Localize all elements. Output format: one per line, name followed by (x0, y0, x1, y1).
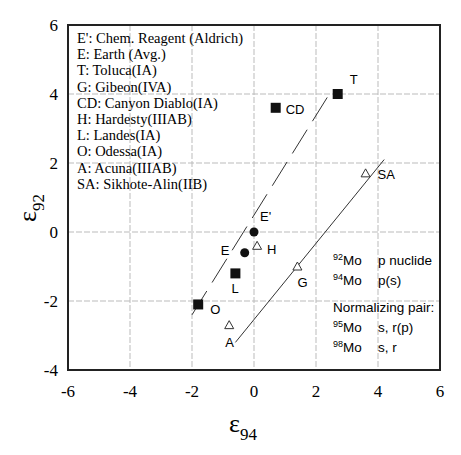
nuclide-row: 95Mo (333, 319, 362, 335)
legend-entry: T: Toluca(IA) (77, 62, 157, 79)
legend-entry: E': Chem. Reagent (Aldrich) (77, 30, 243, 47)
normalizing-title: Normalizing pair: (333, 300, 434, 315)
square-marker (333, 89, 343, 99)
x-tick-label: -2 (185, 382, 199, 401)
legend-entry: CD: Canyon Diablo(IA) (77, 95, 218, 112)
point-label: O (210, 302, 220, 317)
square-marker (230, 268, 240, 278)
x-tick-label: 6 (436, 382, 445, 401)
nuclide-desc: s, r(p) (378, 320, 413, 335)
scatter-chart: E'ETCDLOHGASA -6-4-20246 -4-20246 E': Ch… (0, 0, 461, 455)
x-tick-label: -4 (123, 382, 138, 401)
point-label: L (231, 281, 238, 296)
y-tick-label: 2 (50, 154, 59, 173)
x-tick-label: -6 (61, 382, 75, 401)
y-tick-label: -2 (44, 292, 58, 311)
point-label: SA (378, 167, 396, 182)
y-tick-label: 0 (50, 223, 59, 242)
nuclide-desc: s, r (378, 340, 397, 355)
y-tick-label: 6 (50, 16, 59, 35)
nuclide-annotation: 92Mop nuclide94Mop(s)Normalizing pair:95… (333, 252, 434, 355)
x-tick-label: 4 (374, 382, 383, 401)
y-tick-label: -4 (44, 361, 59, 380)
triangle-marker (361, 169, 370, 177)
nuclide-row: 98Mo (333, 339, 362, 355)
x-axis-label: ε94 (229, 409, 257, 444)
y-tick-label: 4 (50, 85, 59, 104)
legend-entry: O: Odessa(IA) (77, 143, 162, 160)
triangle-marker (225, 321, 234, 329)
x-tick-label: 2 (312, 382, 321, 401)
point-label: H (267, 242, 276, 257)
point-label: G (297, 275, 307, 290)
nuclide-row: 94Mo (333, 272, 362, 288)
nuclide-desc: p nuclide (378, 253, 432, 268)
square-marker (271, 103, 281, 113)
point-label: E' (260, 209, 271, 224)
point-label: CD (286, 102, 305, 117)
legend-entry: L: Landes(IA) (77, 127, 161, 144)
legend: E': Chem. Reagent (Aldrich)E: Earth (Avg… (77, 30, 243, 193)
legend-entry: SA: Sikhote-Alin(IIB) (77, 176, 207, 193)
square-marker (193, 299, 203, 309)
triangle-marker (293, 262, 302, 270)
x-tick-labels: -6-4-20246 (61, 382, 444, 401)
point-label: T (350, 72, 358, 87)
legend-entry: E: Earth (Avg.) (77, 46, 166, 63)
circle-marker (240, 248, 249, 257)
trend-line (192, 91, 332, 315)
point-label: A (225, 335, 234, 350)
legend-entry: A: Acuna(IIIAB) (77, 160, 177, 177)
legend-entry: H: Hardesty(IIIAB) (77, 111, 192, 128)
y-axis-label: ε92 (13, 194, 48, 222)
point-label: E (221, 243, 230, 258)
nuclide-desc: p(s) (378, 273, 401, 288)
nuclide-row: 92Mo (333, 252, 362, 268)
legend-entry: G: Gibeon(IVA) (77, 79, 172, 96)
x-tick-label: 0 (250, 382, 259, 401)
circle-marker (250, 228, 259, 237)
